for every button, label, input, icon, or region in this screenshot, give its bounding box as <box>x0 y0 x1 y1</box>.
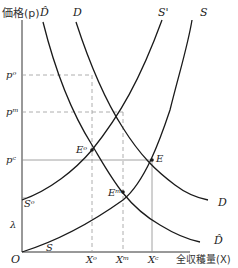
label-p-c: pᶜ <box>6 154 16 165</box>
label-d-top: D <box>72 6 82 19</box>
supply-demand-diagram: 価格(p) 全収穫量(X) O D̂ D S' S D D̂ S Sᵒ pᵒ p… <box>0 0 238 268</box>
label-d-hat-right: D̂ <box>213 234 223 247</box>
label-s-prime-top: S' <box>158 6 169 19</box>
demand-curve-d-hat <box>43 22 200 242</box>
label-e-m: Eᵐ <box>107 187 121 198</box>
label-s-o-left: Sᵒ <box>24 198 35 209</box>
label-x-m: Xᵐ <box>115 254 129 265</box>
label-e: E <box>155 153 164 164</box>
label-d-right: D <box>217 196 227 209</box>
label-d-hat-top: D̂ <box>39 6 49 19</box>
x-axis-label: 全収穫量(X) <box>176 253 231 265</box>
label-p-o: pᵒ <box>6 69 16 80</box>
demand-curve-d <box>76 22 208 200</box>
y-axis-label: 価格(p) <box>2 6 40 20</box>
label-lambda: λ <box>9 219 16 230</box>
point-e-o <box>90 148 94 152</box>
origin-label: O <box>11 253 20 266</box>
label-x-o: Xᵒ <box>85 254 97 265</box>
point-e-m <box>121 190 125 194</box>
supply-curve-s <box>22 20 192 252</box>
label-s-bottom: S <box>46 242 53 253</box>
point-e <box>150 158 154 162</box>
label-p-m: pᵐ <box>6 106 19 117</box>
label-s-top: S <box>200 6 208 19</box>
label-x-c: Xᶜ <box>147 254 159 265</box>
label-e-o: Eᵒ <box>75 144 87 155</box>
